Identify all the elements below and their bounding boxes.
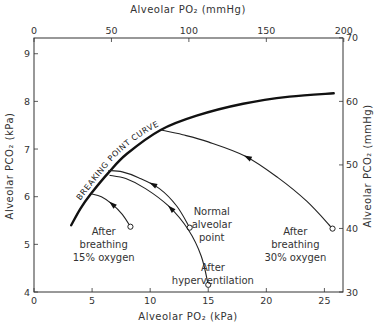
y-tick-label-left: 8 xyxy=(24,96,30,107)
x-tick-label-bottom: 0 xyxy=(31,295,37,306)
x-tick-label-bottom: 25 xyxy=(318,295,330,306)
arrow-icon xyxy=(148,180,158,188)
x-tick-label-bottom: 5 xyxy=(89,295,95,306)
y-tick-label-right: 40 xyxy=(346,223,358,234)
y-tick-label-left: 5 xyxy=(24,239,30,250)
annotation-label: Afterbreathing15% oxygen xyxy=(73,226,135,263)
bottom-axis-title: Alveolar PO₂ (kPa) xyxy=(138,311,237,322)
annotation-label: Afterhyperventilation xyxy=(172,262,254,286)
x-tick-label-top: 150 xyxy=(257,25,275,36)
y-tick-label-right: 50 xyxy=(346,159,358,170)
left-axis-title: Alveolar PCO₂ (kPa) xyxy=(4,113,15,220)
y-tick-label-right: 70 xyxy=(346,32,358,43)
after-breathing-30-oxygen-line xyxy=(161,130,333,229)
x-tick-label-top: 100 xyxy=(180,25,198,36)
right-axis-title: Alveolar PCO₂ (mmHg) xyxy=(362,104,373,227)
top-axis-title: Alveolar PO₂ (mmHg) xyxy=(130,4,246,15)
after-breathing-15-oxygen-line xyxy=(91,194,130,227)
normal-alveolar-point-line xyxy=(108,170,189,227)
arrow-icon xyxy=(243,153,253,161)
y-tick-label-left: 7 xyxy=(24,144,30,155)
x-tick-label-bottom: 20 xyxy=(260,295,272,306)
axes: 05101520250501001502004567893040506070 xyxy=(24,25,358,306)
x-tick-label-top: 0 xyxy=(31,25,37,36)
x-tick-label-bottom: 15 xyxy=(202,295,214,306)
annotations: Afterbreathing15% oxygenNormalalveolarpo… xyxy=(73,206,327,286)
after-hyperventilation-line xyxy=(110,175,209,285)
x-tick-label-top: 50 xyxy=(105,25,117,36)
annotation-label: Normalalveolarpoint xyxy=(192,206,233,243)
breaking-point-chart: 05101520250501001502004567893040506070 B… xyxy=(0,0,378,328)
y-tick-label-left: 9 xyxy=(24,48,30,59)
x-tick-label-bottom: 10 xyxy=(144,295,156,306)
start-point-marker xyxy=(330,226,335,231)
start-point-marker xyxy=(128,224,133,229)
y-tick-label-left: 6 xyxy=(24,191,30,202)
y-tick-label-right: 60 xyxy=(346,96,358,107)
y-tick-label-right: 30 xyxy=(346,287,358,298)
annotation-label: Afterbreathing30% oxygen xyxy=(264,226,326,263)
y-tick-label-left: 4 xyxy=(24,287,30,298)
